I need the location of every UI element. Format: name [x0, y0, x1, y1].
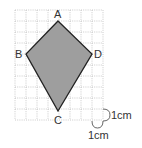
scale-horizontal-label: 1cm: [88, 129, 109, 141]
label-d: D: [94, 48, 102, 60]
kite-shape: [26, 21, 92, 111]
scale-brace-horizontal-icon: [92, 121, 103, 128]
label-b: B: [15, 48, 22, 60]
scale-vertical-label: 1cm: [111, 109, 132, 121]
label-c: C: [54, 114, 62, 126]
kite-diagram: A B D C 1cm 1cm: [0, 0, 142, 148]
label-a: A: [54, 8, 62, 20]
scale-brace-vertical-icon: [103, 109, 110, 121]
